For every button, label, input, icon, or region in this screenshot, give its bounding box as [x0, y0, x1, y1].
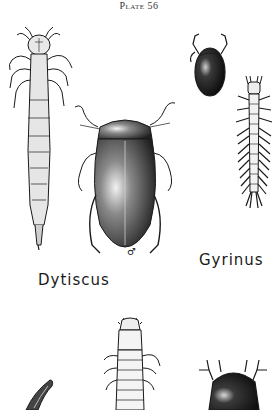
- gyrinus-label: Gyrinus: [199, 251, 264, 269]
- dytiscus-larva-illustration: [0, 15, 80, 255]
- gyrinus-adult-illustration: [185, 32, 235, 102]
- male-symbol: ♂: [127, 246, 136, 257]
- dytiscus-adult-illustration: [70, 95, 180, 255]
- partial-claw-illustration: [20, 378, 60, 410]
- gyrinus-larva-illustration: [232, 72, 278, 222]
- partial-larva-illustration: [100, 316, 162, 410]
- partial-beetle-illustration: [193, 358, 278, 410]
- plate-title: Plate 56: [0, 0, 278, 12]
- dytiscus-label: Dytiscus: [38, 271, 110, 289]
